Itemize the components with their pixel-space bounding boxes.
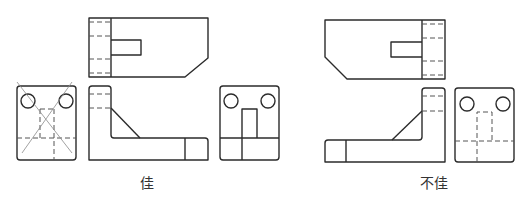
good-caption: 佳 [140,172,154,192]
technical-drawing-canvas [0,0,525,199]
bad-front-view [325,88,445,162]
good-right-side-view [220,86,279,160]
good-left-side-view-crossed-out [17,82,76,160]
bad-top-view [325,20,445,79]
bad-right-side-view [455,88,514,162]
not-good-caption: 不佳 [420,172,448,192]
good-top-view [89,18,208,77]
good-front-view [89,86,208,160]
